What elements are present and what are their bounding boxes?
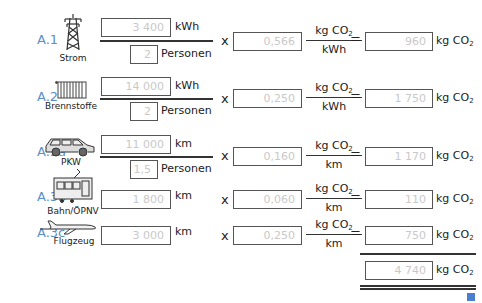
result-unit-a2: kg CO2 [436, 91, 474, 105]
result-unit-a3b: kg CO2 [436, 192, 474, 206]
result-unit-a1: kg CO2 [436, 34, 474, 48]
result-output-a3c: 750 [365, 226, 433, 245]
category-label-bahn-oepnv: Bahn/ÖPNV [38, 206, 108, 216]
factor-input-a1[interactable]: 0,566 [233, 32, 302, 51]
result-output-a1: 960 [365, 32, 433, 51]
corner-marker [467, 293, 475, 301]
multiply-sign-a3a: x [221, 148, 229, 163]
equals-sign-a3c: = [350, 225, 361, 240]
amount-input-a3b[interactable]: 1 800 [101, 190, 171, 209]
category-label-flugzeug: Flugzeug [39, 236, 109, 246]
category-label-brennstoffe: Brennstoffe [36, 101, 106, 111]
result-output-a3a: 1 170 [365, 147, 433, 166]
amount-unit-a3a: km [175, 137, 192, 150]
amount-input-a3a[interactable]: 11 000 [101, 135, 171, 154]
row-label-a1: A.1 [37, 32, 58, 47]
fraction-line-a1 [100, 40, 213, 42]
persons-input-a3a[interactable]: 1,5 [130, 160, 158, 179]
result-output-a3b: 110 [365, 190, 433, 209]
amount-input-a2[interactable]: 14 000 [101, 77, 171, 96]
fraction-line-a2 [100, 98, 213, 100]
persons-input-a2[interactable]: 2 [130, 102, 158, 121]
power-pylon-icon [62, 13, 84, 51]
equals-sign-a1: = [350, 31, 361, 46]
result-unit-a3a: kg CO2 [436, 149, 474, 163]
amount-input-a1[interactable]: 3 400 [101, 18, 171, 37]
factor-input-a3b[interactable]: 0,060 [233, 190, 302, 209]
fraction-line-a3a [100, 156, 213, 158]
amount-unit-a3c: km [175, 225, 192, 238]
persons-unit-a1: Personen [161, 47, 212, 60]
car-icon [43, 136, 97, 158]
amount-unit-a1: kWh [175, 20, 199, 33]
tram-icon [52, 168, 94, 204]
equals-sign-a3a: = [350, 146, 361, 161]
double-underline-top [360, 285, 476, 287]
equals-sign-a3b: = [350, 189, 361, 204]
total-unit: kg CO2 [436, 263, 474, 277]
persons-input-a1[interactable]: 2 [130, 45, 158, 64]
radiator-icon [55, 80, 89, 100]
category-label-pkw: PKW [36, 157, 106, 167]
amount-unit-a2: kWh [175, 79, 199, 92]
amount-unit-a3b: km [175, 189, 192, 202]
multiply-sign-a2: x [221, 91, 229, 106]
factor-input-a3a[interactable]: 0,160 [233, 147, 302, 166]
persons-unit-a2: Personen [161, 104, 212, 117]
result-output-a2: 1 750 [365, 89, 433, 108]
total-output: 4 740 [365, 261, 433, 280]
double-underline-bottom [360, 288, 476, 290]
sum-line [360, 253, 476, 255]
category-label-strom: Strom [38, 53, 108, 63]
factor-input-a2[interactable]: 0,250 [233, 89, 302, 108]
multiply-sign-a3c: x [221, 228, 229, 243]
amount-input-a3c[interactable]: 3 000 [101, 226, 171, 245]
result-unit-a3c: kg CO2 [436, 228, 474, 242]
airplane-icon [40, 220, 98, 236]
persons-unit-a3a: Personen [161, 162, 212, 175]
multiply-sign-a1: x [221, 33, 229, 48]
multiply-sign-a3b: x [221, 192, 229, 207]
factor-input-a3c[interactable]: 0,250 [233, 226, 302, 245]
equals-sign-a2: = [350, 88, 361, 103]
